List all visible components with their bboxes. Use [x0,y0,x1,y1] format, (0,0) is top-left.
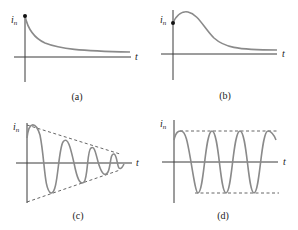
decay-curve [25,16,130,52]
caption-c: (c) [72,210,83,222]
caption-d: (d) [217,210,229,222]
natural-response-figure: in t (a) in t (b) in t (c) in t (d) [0,0,298,230]
y-axis-label: in [11,14,18,27]
caption-b: (b) [219,90,231,102]
panel-d: in t (d) [160,118,286,222]
critically-damped-curve [173,12,277,50]
y-axis-label: in [160,118,167,131]
caption-a: (a) [71,91,82,103]
x-axis-label: t [282,48,285,59]
x-axis-label: t [283,156,286,167]
x-axis-label: t [135,51,138,62]
underdamped-curve [27,125,124,193]
initial-value-dot [23,14,27,18]
y-axis-label: in [160,14,167,27]
panel-a: in t (a) [11,14,138,103]
panel-b: in t (b) [160,10,285,102]
panel-c: in t (c) [13,121,139,222]
initial-value-dot [171,21,175,25]
y-axis-label: in [13,121,20,134]
x-axis-label: t [136,157,139,168]
